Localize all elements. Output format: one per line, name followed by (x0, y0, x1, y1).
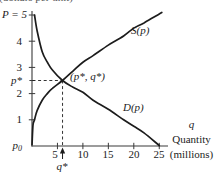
q-tick-label-5: 5 (47, 149, 63, 160)
supply-price-intercept-label: p0 (4, 140, 22, 153)
demand-curve-label: D(p) (123, 102, 144, 113)
q-tick-label-10: 10 (75, 149, 91, 160)
p-tick-label-4: 4 (4, 36, 22, 47)
q-axis-title-symbol: q (164, 117, 219, 132)
q-tick-label-15: 15 (100, 149, 116, 160)
price-unit-label-clipped: (dollars per unit) (0, 0, 73, 3)
equilibrium-price-label: p* (4, 75, 22, 86)
p-tick-label-3: 3 (4, 62, 22, 73)
supply-demand-figure: (dollars per unit) P = 5 4 3 p* 2 1 p0 5… (0, 0, 219, 176)
p0-subscript: 0 (18, 144, 22, 153)
supply-curve-label: S(p) (131, 25, 149, 36)
q-axis-title: q Quantity (millions) (164, 117, 219, 162)
equilibrium-quantity-label: q* (54, 161, 70, 172)
p-tick-label-1: 1 (4, 114, 22, 125)
q-tick-label-20: 20 (126, 149, 142, 160)
equilibrium-point-label: (p*, q*) (70, 71, 105, 82)
q-axis-title-units: (millions) (164, 147, 219, 162)
p-tick-label-2: 2 (4, 88, 22, 99)
price-axis-top-label: P = 5 (2, 9, 27, 20)
q-axis-title-word: Quantity (164, 132, 219, 147)
